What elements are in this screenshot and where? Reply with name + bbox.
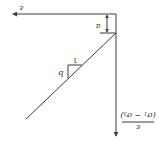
y-axis-label-numerator: ε [136,123,140,132]
hyperbolic-plot: ε a 1 b ε (σ1 − σ3) [0,0,159,148]
fitted-line [26,33,116,119]
diagram-canvas: ε a 1 b ε (σ1 − σ3) [0,0,159,148]
slope-rise-label: b [58,69,63,78]
y-axis-label: ε (σ1 − σ3) [120,111,155,133]
slope-run-label: 1 [73,56,77,64]
intercept-label: a [95,22,100,31]
x-axis-label: ε [19,4,23,13]
y-axis-label-denominator: (σ1 − σ3) [120,111,155,121]
